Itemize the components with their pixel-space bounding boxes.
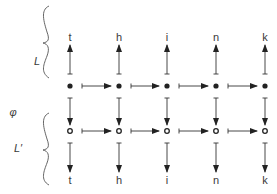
open-node-2 [165,129,170,134]
bottom-letter-h: h [116,175,122,186]
bottom-letter-n: n [213,175,219,186]
top-letter-t: t [68,32,71,43]
layer-label-Lprime: L′ [14,143,22,154]
bottom-letter-t: t [68,175,71,186]
diagram-canvas [0,0,277,194]
filled-node-4 [262,83,267,88]
bottom-letter-k: k [262,175,268,186]
brace-Lprime [43,113,49,185]
brace-L [43,6,49,78]
filled-node-1 [116,83,121,88]
open-node-1 [117,129,122,134]
top-letter-n: n [213,32,219,43]
open-node-0 [68,129,73,134]
open-node-3 [214,129,219,134]
layer-label-L: L [34,56,40,67]
filled-node-2 [164,83,169,88]
filled-node-3 [213,83,218,88]
top-letter-k: k [262,32,268,43]
bottom-letter-i: i [166,175,168,186]
filled-node-0 [67,83,72,88]
open-node-4 [263,129,268,134]
layer-label-phi: φ [9,107,16,118]
top-letter-h: h [116,32,122,43]
top-letter-i: i [166,32,168,43]
